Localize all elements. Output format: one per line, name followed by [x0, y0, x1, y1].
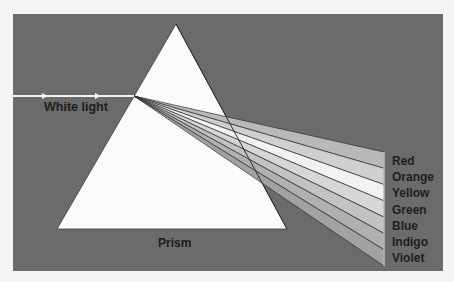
- white-light-label: White light: [44, 100, 109, 114]
- spectrum-label-violet: Violet: [392, 251, 424, 265]
- spectrum-label-orange: Orange: [392, 170, 434, 184]
- spectrum-label-blue: Blue: [392, 219, 418, 233]
- spectrum-label-indigo: Indigo: [392, 235, 428, 249]
- spectrum-label-yellow: Yellow: [392, 186, 430, 200]
- spectrum-label-green: Green: [392, 203, 427, 217]
- prism-label: Prism: [158, 236, 191, 250]
- prism-diagram: White light Prism RedOrangeYellowGreenBl…: [0, 0, 454, 282]
- spectrum-label-red: Red: [392, 154, 415, 168]
